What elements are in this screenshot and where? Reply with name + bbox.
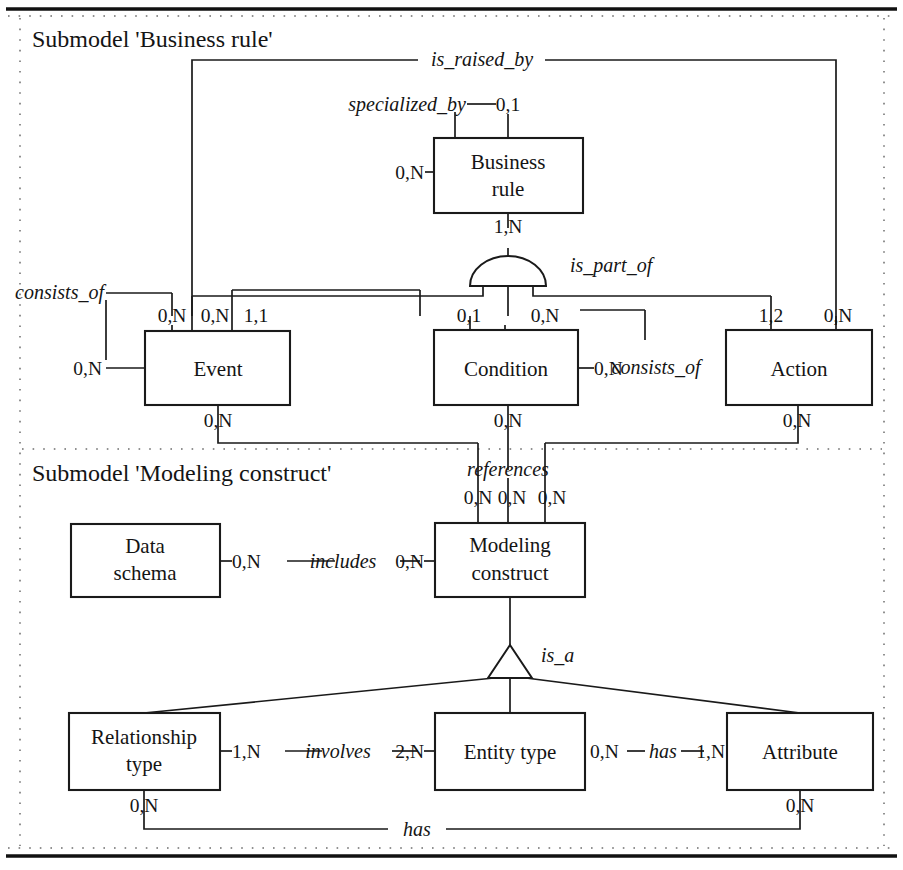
entity-condition[interactable]: Condition	[434, 330, 578, 405]
isa-triangle-shape	[488, 645, 532, 678]
cardinality-involves-right: 2,N	[395, 741, 424, 762]
entity-event[interactable]: Event	[145, 331, 290, 405]
relationship-label-references: references	[467, 458, 549, 481]
edge-has-rt-bottom	[144, 790, 388, 829]
relationship-label-specialized-by: specialized_by	[348, 93, 466, 116]
edge-isa-to-relationshiptype	[144, 678, 494, 713]
halfdisk-shape	[470, 256, 546, 286]
submodel-title-business-rule: Submodel 'Business rule'	[32, 26, 273, 52]
cardinality-condition-bottom: 0,N	[494, 410, 523, 431]
entity-attribute[interactable]: Attribute	[727, 713, 873, 790]
entity-data-schema-label-1: Data	[125, 534, 165, 558]
cardinality-consists-of-event-left: 0,N	[73, 358, 102, 379]
relationship-label-has-entity-attribute: has	[649, 740, 677, 762]
entity-relationship-type-label-1: Relationship	[91, 725, 197, 749]
entity-data-schema[interactable]: Data schema	[71, 524, 220, 597]
cardinality-is-part-of-br: 1,N	[494, 216, 523, 237]
submodel-title-modeling-construct: Submodel 'Modeling construct'	[32, 460, 331, 486]
relationship-label-consists-of-event: consists_of	[15, 281, 106, 304]
relationship-label-is-part-of: is_part_of	[570, 254, 655, 277]
er-diagram-figure: Submodel 'Business rule' Submodel 'Model…	[0, 0, 903, 870]
relationship-label-involves: involves	[305, 740, 371, 762]
edge-action-bottom-to-mc	[545, 405, 798, 443]
is-part-of-halfdisk-symbol	[470, 256, 546, 286]
entity-modeling-construct-label-2: construct	[472, 561, 549, 585]
cardinality-event-top-right: 1,1	[244, 305, 268, 326]
cardinality-action-top-right: 0,N	[824, 305, 853, 326]
relationship-label-is-a: is_a	[541, 644, 574, 666]
entity-modeling-construct-label-1: Modeling	[469, 533, 551, 557]
cardinality-references-mc-mid: 0,N	[498, 487, 527, 508]
is-a-triangle-symbol	[488, 645, 532, 678]
cardinality-consists-of-condition-right: 0,N	[594, 358, 623, 379]
entity-condition-label: Condition	[464, 357, 549, 381]
entity-entity-type-label: Entity type	[464, 740, 557, 764]
relationship-label-is-raised-by: is_raised_by	[431, 48, 533, 71]
relationship-label-consists-of-condition: consists_of	[612, 356, 703, 379]
entity-business-rule-label-2: rule	[492, 177, 525, 201]
cardinality-action-top-left: 1,2	[759, 305, 783, 326]
cardinality-has-reltype-bottom: 0,N	[130, 795, 159, 816]
cardinality-involves-left: 1,N	[232, 741, 261, 762]
cardinality-has-attribute-bottom: 0,N	[786, 795, 815, 816]
entity-modeling-construct[interactable]: Modeling construct	[435, 523, 585, 597]
relationship-label-has-reltype-attribute: has	[403, 818, 431, 840]
entity-action-label: Action	[770, 357, 828, 381]
entity-entity-type[interactable]: Entity type	[435, 713, 585, 790]
cardinality-condition-top-right: 0,N	[531, 305, 560, 326]
cardinality-consists-of-event-top: 0,N	[158, 305, 187, 326]
cardinality-references-mc-left: 0,N	[464, 487, 493, 508]
cardinality-condition-top-left: 0,1	[457, 305, 481, 326]
edge-has-attr-bottom	[446, 790, 800, 829]
edge-is-raised-by-right	[545, 60, 836, 325]
cardinality-event-top-mid: 0,N	[201, 305, 230, 326]
entity-attribute-label: Attribute	[762, 740, 838, 764]
entity-relationship-type-label-2: type	[126, 752, 162, 776]
entity-business-rule-label-1: Business	[471, 150, 546, 174]
entity-action[interactable]: Action	[726, 330, 872, 405]
entity-relationship-type[interactable]: Relationship type	[69, 713, 220, 790]
cardinality-includes-left: 0,N	[232, 551, 261, 572]
cardinality-has-attribute-right: 1,N	[696, 741, 725, 762]
edge-ispartof-leg-left	[192, 286, 483, 296]
cardinality-specialized-by-left: 0,N	[395, 162, 424, 183]
cardinality-event-bottom: 0,N	[204, 410, 233, 431]
entity-business-rule[interactable]: Business rule	[434, 138, 583, 213]
cardinality-is-raised-by-br: 0,1	[496, 94, 520, 115]
edge-ispartof-leg-right	[533, 286, 771, 296]
relationship-label-includes: includes	[310, 550, 377, 572]
cardinality-has-entity-left: 0,N	[590, 741, 619, 762]
cardinality-includes-right: 0,N	[395, 551, 424, 572]
edge-isa-to-attribute	[526, 678, 800, 713]
cardinality-action-bottom: 0,N	[783, 410, 812, 431]
cardinality-references-mc-right: 0,N	[538, 487, 567, 508]
entity-event-label: Event	[194, 357, 243, 381]
edge-event-bottom-to-mc	[218, 405, 478, 443]
entity-data-schema-label-2: schema	[114, 561, 178, 585]
